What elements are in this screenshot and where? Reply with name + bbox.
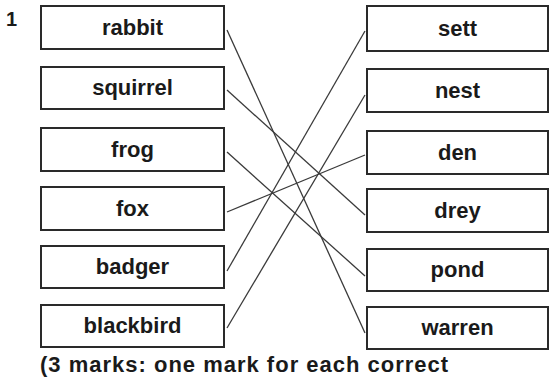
animal-box-label: blackbird (84, 313, 182, 339)
home-box-drey[interactable]: drey (366, 188, 549, 233)
animal-box-badger[interactable]: badger (40, 245, 225, 289)
animal-box-label: frog (111, 137, 154, 163)
home-box-label: den (438, 140, 477, 166)
animal-box-label: badger (96, 254, 169, 280)
home-box-pond[interactable]: pond (366, 248, 549, 292)
home-box-label: nest (435, 78, 480, 104)
animal-box-rabbit[interactable]: rabbit (40, 5, 225, 50)
animal-box-blackbird[interactable]: blackbird (40, 304, 225, 348)
home-box-label: drey (434, 198, 480, 224)
home-box-label: sett (438, 16, 477, 42)
animal-box-label: rabbit (102, 15, 163, 41)
match-line-rabbit-warren (227, 30, 365, 333)
match-line-fox-den (227, 155, 365, 212)
home-box-sett[interactable]: sett (366, 5, 549, 52)
animal-box-fox[interactable]: fox (40, 186, 225, 231)
match-line-frog-pond (227, 152, 365, 276)
marks-note: (3 marks: one mark for each correct (40, 352, 449, 378)
match-line-badger-sett (227, 31, 365, 271)
home-box-den[interactable]: den (366, 130, 549, 175)
animal-box-squirrel[interactable]: squirrel (40, 66, 225, 110)
home-box-warren[interactable]: warren (366, 306, 549, 350)
match-line-squirrel-drey (227, 90, 365, 215)
home-box-nest[interactable]: nest (366, 68, 549, 113)
animal-box-frog[interactable]: frog (40, 127, 225, 172)
match-line-blackbird-nest (227, 95, 365, 328)
animal-box-label: squirrel (92, 75, 173, 101)
home-box-label: warren (421, 315, 493, 341)
animal-box-label: fox (116, 196, 149, 222)
home-box-label: pond (431, 257, 485, 283)
